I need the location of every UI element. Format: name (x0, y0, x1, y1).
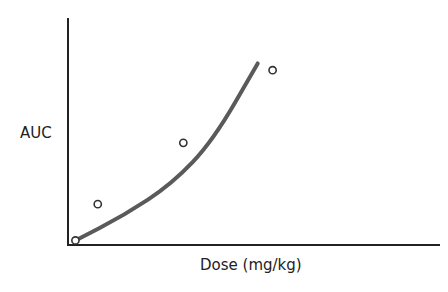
data-point (180, 139, 187, 146)
fitted-curve (75, 63, 257, 240)
y-axis-label: AUC (20, 124, 52, 142)
plot-area (0, 0, 448, 292)
data-points (72, 67, 276, 244)
chart: AUC Dose (mg/kg) (0, 0, 448, 292)
x-axis-label: Dose (mg/kg) (200, 256, 302, 274)
data-point (72, 237, 79, 244)
data-point (269, 67, 276, 74)
data-point (94, 201, 101, 208)
